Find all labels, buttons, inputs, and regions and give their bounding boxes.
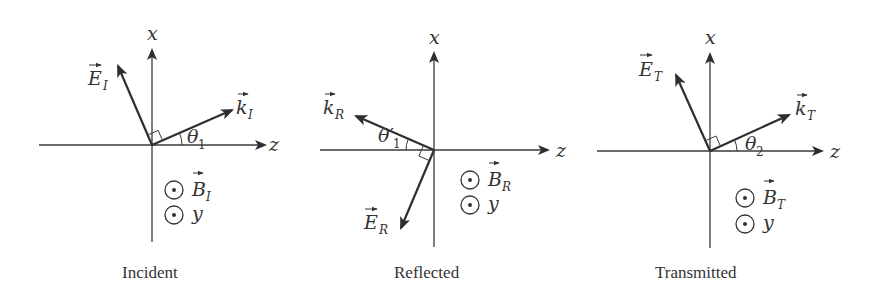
- panel-incident: x z E I k I θ 1 B I: [39, 22, 280, 282]
- svg-text:1: 1: [393, 137, 401, 151]
- svg-text:1: 1: [198, 138, 206, 152]
- svg-text:T: T: [777, 198, 786, 212]
- e-vector-arrow: [401, 150, 434, 228]
- svg-text:I: I: [102, 79, 108, 93]
- svg-text:y: y: [762, 211, 774, 233]
- svg-text:k: k: [236, 96, 248, 118]
- y-axis-out-of-page: y: [165, 202, 203, 224]
- b-field-out-of-page: B I: [165, 173, 211, 204]
- svg-text:y: y: [487, 192, 499, 214]
- svg-text:E: E: [638, 58, 653, 80]
- k-vector-label: k T: [795, 95, 816, 123]
- svg-text:E: E: [363, 211, 378, 233]
- svg-text:2: 2: [756, 145, 764, 159]
- svg-text:T: T: [807, 109, 816, 123]
- svg-text:I: I: [205, 190, 211, 204]
- panel-transmitted: x z E T k T θ 2 B T: [597, 26, 841, 282]
- x-axis-label: x: [147, 22, 158, 44]
- e-vector-label: E R: [363, 209, 388, 237]
- angle-arc: [406, 139, 408, 150]
- svg-text:k: k: [323, 96, 335, 118]
- svg-text:k: k: [795, 97, 807, 119]
- svg-text:T: T: [654, 70, 663, 84]
- angle-label: θ 2: [745, 132, 764, 159]
- e-vector-label: E T: [638, 55, 663, 84]
- svg-text:R: R: [334, 108, 344, 122]
- angle-arc: [735, 140, 737, 151]
- angle-label: θ 1: [187, 125, 206, 152]
- x-axis-label: x: [429, 26, 440, 48]
- svg-text:B: B: [762, 186, 777, 208]
- svg-text:B: B: [487, 168, 502, 190]
- svg-text:R: R: [378, 223, 388, 237]
- svg-text:E: E: [87, 67, 102, 89]
- b-field-out-of-page: B T: [736, 181, 786, 212]
- caption-transmitted: Transmitted: [655, 263, 737, 282]
- svg-text:R: R: [501, 180, 511, 194]
- y-axis-out-of-page: y: [736, 211, 774, 233]
- svg-text:I: I: [247, 108, 253, 122]
- svg-text:y: y: [191, 202, 203, 224]
- b-field-out-of-page: B R: [461, 163, 511, 194]
- caption-incident: Incident: [122, 263, 178, 282]
- z-axis-label: z: [268, 133, 280, 155]
- em-wave-diagram: x z E I k I θ 1 B I: [0, 0, 872, 288]
- x-axis-label: x: [705, 26, 716, 48]
- svg-text:B: B: [191, 178, 206, 200]
- angle-label: θ′ 1: [378, 124, 401, 151]
- caption-reflected: Reflected: [394, 263, 460, 282]
- svg-text:θ′: θ′: [378, 124, 394, 146]
- k-vector-label: k R: [323, 94, 344, 122]
- z-axis-label: z: [829, 140, 841, 162]
- panel-reflected: x z k R E R θ′ 1 B R: [320, 26, 567, 282]
- angle-arc: [180, 133, 183, 145]
- e-vector-arrow: [676, 75, 710, 151]
- k-vector-label: k I: [236, 94, 253, 122]
- y-axis-out-of-page: y: [461, 192, 499, 214]
- e-vector-arrow: [118, 66, 152, 145]
- z-axis-label: z: [555, 139, 567, 161]
- e-vector-label: E I: [87, 65, 108, 93]
